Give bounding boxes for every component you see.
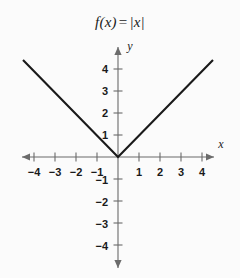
y-tick-label-4: 4 (102, 63, 109, 75)
x-tick-label--4: −4 (28, 166, 41, 178)
y-tick-label-2: 2 (102, 107, 108, 119)
coordinate-plane-plot: −4 −3 −2 −1 1 2 3 4 4 3 2 1 −1 −2 −3 −4 … (0, 0, 240, 278)
y-axis-up-arrow-icon (114, 47, 121, 55)
y-tick-label--2: −2 (95, 196, 108, 208)
x-tick-label-1: 1 (136, 166, 142, 178)
x-tick-label-3: 3 (178, 166, 184, 178)
y-axis-down-arrow-icon (114, 260, 121, 268)
absolute-value-function-figure: f(x)=|x| (0, 0, 240, 278)
x-axis-right-arrow-icon (206, 153, 214, 160)
y-axis-label: y (126, 39, 133, 53)
x-tick-label--2: −2 (70, 166, 83, 178)
x-tick-label-2: 2 (157, 166, 163, 178)
x-tick-label--3: −3 (49, 166, 62, 178)
y-tick-label-1: 1 (102, 129, 108, 141)
y-tick-label--3: −3 (95, 218, 108, 230)
x-tick-label-4: 4 (199, 166, 206, 178)
x-axis-tick-labels: −4 −3 −2 −1 1 2 3 4 (28, 166, 206, 178)
y-tick-label-3: 3 (102, 85, 108, 97)
y-tick-label--4: −4 (95, 240, 108, 252)
y-tick-label--1: −1 (95, 174, 108, 186)
x-axis-left-arrow-icon (22, 153, 30, 160)
x-axis-label: x (217, 137, 224, 151)
